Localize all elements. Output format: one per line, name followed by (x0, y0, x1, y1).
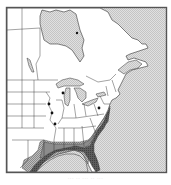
record-marker (76, 32, 78, 34)
map-caption: ··· ·· ··· ·· ··· (0, 175, 171, 181)
map-body (7, 8, 166, 172)
map-svg (0, 0, 171, 185)
range-map: ··· ·· ··· ·· ··· (0, 0, 171, 185)
record-marker (48, 103, 51, 106)
record-marker (51, 112, 54, 115)
record-marker (98, 107, 101, 110)
record-marker (54, 123, 57, 126)
record-marker (62, 92, 65, 95)
